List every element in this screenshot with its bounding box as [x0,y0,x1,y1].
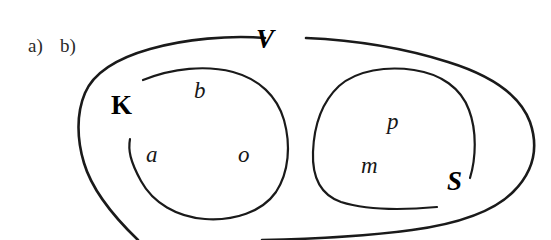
element-label-m: m [361,154,378,177]
diagram-canvas [0,0,551,240]
part-label-a: a) [28,36,43,55]
element-label-b: b [194,79,206,102]
element-label-a: a [146,143,158,166]
set-label-s: S [447,168,462,195]
set-diagram-figure: a) b) V K S b a o p m [0,0,551,240]
part-label-b: b) [60,36,76,55]
element-label-o: o [238,143,250,166]
set-label-k: K [111,92,132,119]
element-label-p: p [387,110,399,133]
set-label-v: V [256,26,274,53]
